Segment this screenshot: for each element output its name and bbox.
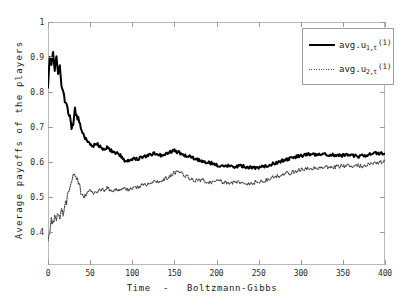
y-tick-mark bbox=[48, 162, 53, 163]
x-tick-mark bbox=[90, 260, 91, 265]
y-tick-mark bbox=[48, 57, 53, 58]
y-axis-label: Average payoffs of the players bbox=[14, 15, 24, 265]
y-tick-label: 0.6 bbox=[22, 157, 44, 166]
legend-sup-2: (1) bbox=[378, 62, 392, 71]
legend-sup-1: (1) bbox=[378, 38, 392, 47]
x-tick-mark bbox=[301, 260, 302, 265]
legend-label-series-1: avg.u1,t(1) bbox=[339, 38, 391, 52]
y-tick-label: 0.8 bbox=[22, 87, 44, 96]
y-tick-mark bbox=[380, 22, 385, 23]
legend-label-series-2: avg.u2,t(1) bbox=[339, 62, 391, 76]
legend-item-series-2: avg.u2,t(1) bbox=[309, 59, 391, 79]
y-tick-label: 0.9 bbox=[22, 52, 44, 61]
y-tick-label: 1 bbox=[22, 18, 44, 27]
x-tick-mark bbox=[259, 260, 260, 265]
x-tick-label: 300 bbox=[294, 269, 308, 278]
x-tick-mark bbox=[132, 260, 133, 265]
legend: avg.u1,t(1) avg.u2,t(1) bbox=[302, 28, 394, 85]
y-tick-label: 0.5 bbox=[22, 192, 44, 201]
x-tick-label: 100 bbox=[125, 269, 139, 278]
x-tick-label: 200 bbox=[210, 269, 224, 278]
x-tick-mark bbox=[343, 22, 344, 27]
legend-sub-1: 1,t bbox=[366, 44, 377, 52]
legend-item-series-1: avg.u1,t(1) bbox=[309, 35, 391, 55]
x-tick-label: 350 bbox=[336, 269, 350, 278]
x-tick-mark bbox=[385, 22, 386, 27]
y-tick-mark bbox=[48, 22, 53, 23]
x-tick-mark bbox=[385, 260, 386, 265]
x-tick-label: 150 bbox=[167, 269, 181, 278]
x-axis-label: Time - Boltzmann-Gibbs bbox=[0, 283, 404, 293]
x-tick-mark bbox=[301, 22, 302, 27]
x-tick-mark bbox=[259, 22, 260, 27]
x-tick-mark bbox=[132, 22, 133, 27]
y-tick-label: 0.7 bbox=[22, 122, 44, 131]
x-tick-mark bbox=[174, 22, 175, 27]
y-tick-mark bbox=[48, 127, 53, 128]
x-tick-label: 0 bbox=[46, 269, 51, 278]
y-tick-mark bbox=[380, 92, 385, 93]
y-tick-mark bbox=[380, 162, 385, 163]
x-tick-label: 50 bbox=[86, 269, 95, 278]
chart-page: 0501001502002503003504000.40.50.60.70.80… bbox=[0, 0, 404, 306]
x-tick-mark bbox=[174, 260, 175, 265]
x-tick-mark bbox=[217, 22, 218, 27]
y-tick-mark bbox=[48, 197, 53, 198]
y-tick-mark bbox=[380, 197, 385, 198]
legend-base-2: avg.u bbox=[339, 64, 366, 74]
y-tick-mark bbox=[380, 127, 385, 128]
y-tick-mark bbox=[48, 92, 53, 93]
x-tick-mark bbox=[90, 22, 91, 27]
y-tick-mark bbox=[380, 232, 385, 233]
legend-base-1: avg.u bbox=[339, 40, 366, 50]
x-tick-mark bbox=[343, 260, 344, 265]
legend-sub-2: 2,t bbox=[366, 68, 377, 76]
x-tick-mark bbox=[48, 260, 49, 265]
legend-swatch-solid-line bbox=[309, 41, 335, 49]
series-line-2 bbox=[48, 160, 385, 241]
y-tick-mark bbox=[48, 232, 53, 233]
x-tick-label: 250 bbox=[252, 269, 266, 278]
x-tick-mark bbox=[217, 260, 218, 265]
legend-swatch-dotted-line bbox=[309, 65, 335, 73]
x-tick-label: 400 bbox=[378, 269, 392, 278]
y-tick-label: 0.4 bbox=[22, 227, 44, 236]
